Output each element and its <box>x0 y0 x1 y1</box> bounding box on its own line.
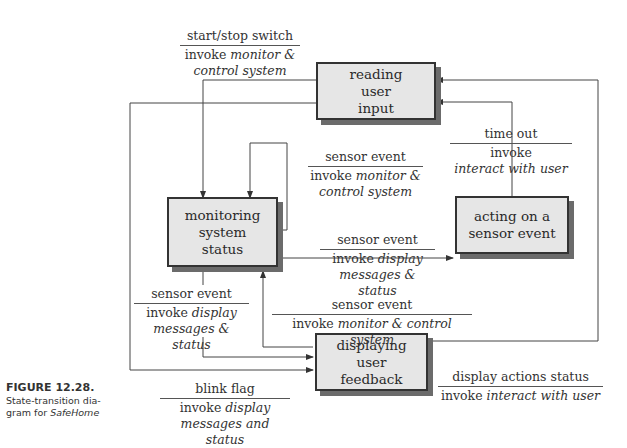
event-text: sensor event <box>308 149 423 167</box>
action-text: control system <box>193 63 286 78</box>
action-text: interact with user <box>454 161 567 176</box>
action-text: monitor & <box>356 168 421 183</box>
state-label: status <box>202 241 243 257</box>
action-text: monitor & <box>230 47 295 62</box>
action-text: invoke <box>180 400 226 415</box>
action-text: messages & status <box>153 321 229 352</box>
action-text: messages and status <box>181 416 270 447</box>
action-text: invoke <box>332 251 378 266</box>
event-text: sensor event <box>134 286 249 304</box>
state-label: feedback <box>340 371 402 387</box>
transition-monitor-to-display: sensor event invoke display messages & s… <box>134 286 249 353</box>
state-label: user <box>356 354 386 370</box>
state-label: input <box>358 100 394 116</box>
transition-self-loop: sensor event invoke monitor & control sy… <box>308 149 423 200</box>
state-reading-user-input: readinguserinput <box>316 62 436 120</box>
action-text: invoke <box>146 305 192 320</box>
action-text: control system <box>319 184 412 199</box>
action-text: display <box>378 251 423 266</box>
transition-display-to-monitor: sensor event invoke monitor & control sy… <box>272 297 472 348</box>
caption-text: State-transition dia- <box>6 395 101 406</box>
event-text: sensor event <box>272 297 472 315</box>
state-label: system <box>199 224 247 240</box>
action-text: invoke <box>490 145 532 160</box>
figure-number: FIGURE 12.28. <box>6 382 101 394</box>
transition-start-stop: start/stop switch invoke monitor & contr… <box>180 28 300 79</box>
state-label: acting on a <box>474 208 550 224</box>
event-text: start/stop switch <box>180 28 300 46</box>
action-text: invoke <box>185 47 231 62</box>
event-text: blink flag <box>160 381 290 399</box>
transition-blink-flag: blink flag invoke display messages and s… <box>160 381 290 448</box>
action-text: interact with user <box>487 388 600 403</box>
transition-monitor-to-acting: sensor event invoke display messages & s… <box>320 232 435 299</box>
action-text: invoke <box>292 316 338 331</box>
state-label: reading <box>350 66 403 82</box>
state-label: sensor event <box>468 225 555 241</box>
state-label: monitoring <box>185 207 261 223</box>
state-monitoring-system-status: monitoringsystemstatus <box>167 197 278 267</box>
transition-time-out: time out invoke interact with user <box>450 126 572 177</box>
action-text: display <box>192 305 237 320</box>
action-text: monitor & control system <box>338 316 452 347</box>
event-text: sensor event <box>320 232 435 250</box>
caption-text: SafeHome <box>50 407 99 418</box>
action-text: invoke <box>310 168 356 183</box>
action-text: messages & status <box>339 267 415 298</box>
state-label: user <box>361 83 391 99</box>
action-text: invoke <box>441 388 487 403</box>
state-acting-on-sensor-event: acting on asensor event <box>455 196 569 254</box>
event-text: display actions status <box>438 369 603 387</box>
action-text: display <box>225 400 270 415</box>
caption-text: gram for <box>6 407 50 418</box>
event-text: time out <box>450 126 572 144</box>
figure-caption: FIGURE 12.28. State-transition dia- gram… <box>6 382 101 419</box>
transition-display-actions: display actions status invoke interact w… <box>438 369 603 404</box>
